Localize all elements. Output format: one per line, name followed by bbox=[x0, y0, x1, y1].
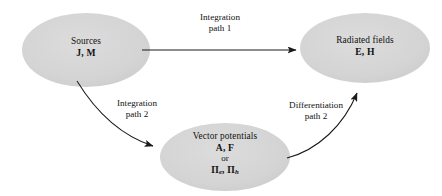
node-ellipse-vector-potentials bbox=[160, 123, 290, 191]
node-ellipse-radiated-fields bbox=[300, 13, 430, 83]
diagram-graphics bbox=[0, 0, 442, 196]
edge-line-integration-path-2 bbox=[77, 81, 153, 146]
diagram-canvas: Sources J, M Radiated fields E, H Vector… bbox=[0, 0, 442, 196]
node-ellipse-sources bbox=[22, 13, 150, 87]
edge-line-differentiation-path-2 bbox=[287, 93, 357, 158]
